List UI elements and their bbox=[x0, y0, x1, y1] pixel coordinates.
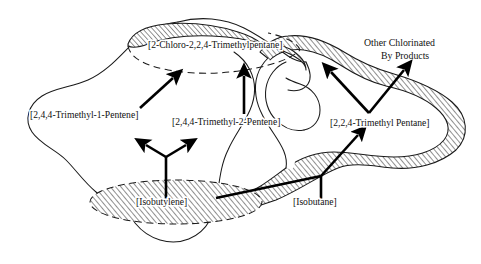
label-isobutane: [Isobutane] bbox=[293, 196, 337, 207]
label-isobutylene: [Isobutylene] bbox=[136, 196, 187, 207]
label-byproducts-line2: By Products bbox=[381, 50, 429, 61]
reaction-network-diagram: [2-Chloro-2,2,4-Trimethylpentane] [2,4,4… bbox=[0, 0, 481, 264]
label-trimethyl-1-pentene: [2,4,4-Trimethyl-1-Pentene] bbox=[30, 109, 138, 120]
label-trimethyl-pentane: [2,2,4-Trimethyl Pentane] bbox=[330, 117, 430, 128]
label-chloro-trimethylpentane: [2-Chloro-2,2,4-Trimethylpentane] bbox=[148, 39, 282, 50]
label-trimethyl-2-pentene: [2,4,4-Trimethyl-2-Pentene] bbox=[172, 116, 280, 127]
diagram-canvas: [2-Chloro-2,2,4-Trimethylpentane] [2,4,4… bbox=[0, 0, 481, 264]
label-byproducts-line1: Other Chlorinated bbox=[364, 37, 435, 48]
